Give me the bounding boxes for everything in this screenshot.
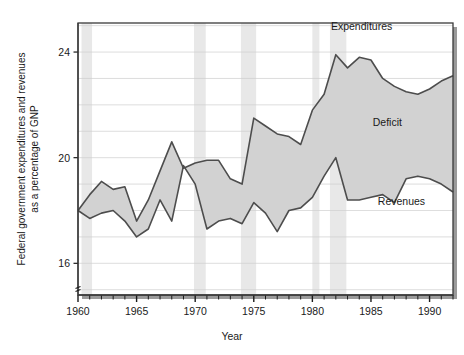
annotation-revenues: Revenues: [378, 195, 425, 207]
y-tick-label-24: 24: [58, 46, 70, 58]
recession-band-2: [194, 23, 206, 295]
x-axis-tick-labels: 1960196519701975198019851990: [66, 305, 441, 317]
annotation-expenditures: Expenditures: [331, 20, 392, 32]
x-tick-label-1980: 1980: [301, 305, 325, 317]
x-axis-title: Year: [221, 330, 243, 342]
x-tick-label-1965: 1965: [125, 305, 149, 317]
y-axis-title-line-2: as a percentage of GNP: [29, 105, 40, 213]
y-tick-label-16: 16: [58, 257, 70, 269]
chart-figure: 162024 1960196519701975198019851990 Expe…: [0, 0, 464, 355]
x-tick-label-1960: 1960: [66, 305, 90, 317]
recession-band-1: [82, 23, 93, 295]
federal-budget-area-chart: 162024 1960196519701975198019851990 Expe…: [0, 0, 464, 355]
y-axis-title-line-1: Federal government expenditures and reve…: [16, 53, 27, 266]
x-tick-label-1985: 1985: [359, 305, 383, 317]
y-tick-label-20: 20: [58, 152, 70, 164]
x-tick-label-1990: 1990: [418, 305, 442, 317]
x-tick-label-1970: 1970: [184, 305, 208, 317]
y-axis-ticks-group: [74, 52, 79, 263]
x-tick-label-1975: 1975: [242, 305, 266, 317]
y-axis-tick-labels: 162024: [58, 46, 70, 269]
annotation-deficit: Deficit: [373, 116, 402, 128]
